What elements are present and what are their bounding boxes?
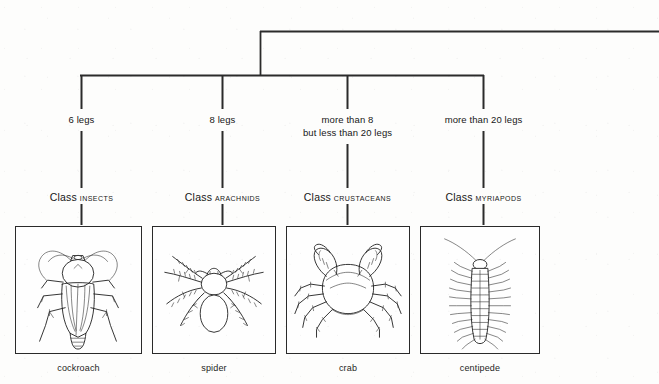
illustration-box-spider [152, 226, 276, 354]
caption-centipede: centipede [420, 363, 540, 373]
taxon-name: ARACHNIDS [215, 195, 260, 202]
taxon-name: CRUSTACEANS [334, 195, 391, 202]
diagram-page: 6 legs 8 legs more than 8 but less than … [0, 0, 659, 384]
illustration-box-cockroach [15, 226, 142, 354]
criterion-line: 6 legs [21, 113, 142, 126]
taxon-name: MYRIAPODS [475, 195, 521, 202]
caption-crab: crab [286, 363, 410, 373]
caption-spider: spider [152, 363, 276, 373]
criterion-label-myriapods: more than 20 legs [413, 113, 554, 126]
class-word: Class [304, 191, 331, 203]
illustration-box-crab [286, 226, 410, 354]
criterion-label-insects: 6 legs [21, 113, 142, 126]
class-word: Class [445, 191, 472, 203]
caption-cockroach: cockroach [15, 363, 142, 373]
criterion-label-crustaceans: more than 8 but less than 20 legs [277, 113, 418, 139]
cockroach-drawing [16, 227, 141, 353]
criterion-line: 8 legs [162, 113, 283, 126]
class-word: Class [185, 191, 212, 203]
spider-drawing [153, 227, 275, 353]
taxon-name: INSECTS [80, 195, 114, 202]
class-label-crustaceans: Class CRUSTACEANS [272, 191, 423, 203]
crab-drawing [287, 227, 409, 353]
illustration-box-centipede [420, 226, 540, 354]
class-label-myriapods: Class MYRIAPODS [408, 191, 559, 203]
criterion-line: more than 20 legs [413, 113, 554, 126]
criterion-label-arachnids: 8 legs [162, 113, 283, 126]
centipede-drawing [421, 227, 539, 353]
criterion-line: more than 8 [277, 113, 418, 126]
criterion-line: but less than 20 legs [277, 126, 418, 139]
class-label-insects: Class INSECTS [6, 191, 157, 203]
class-word: Class [50, 191, 77, 203]
